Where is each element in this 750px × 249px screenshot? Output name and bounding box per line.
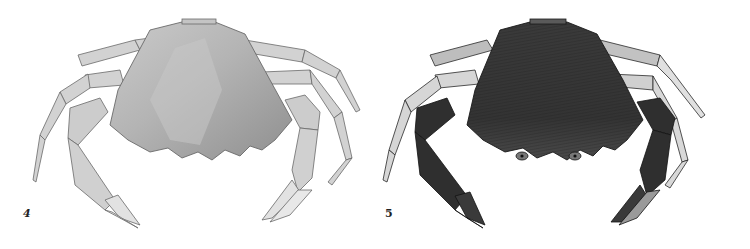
figure-5-crab-dark: 5 [375,0,750,249]
figure-number-label: 5 [385,207,393,220]
frontal-margin [530,19,566,24]
figure-4-crab-light: 4 [0,0,375,249]
figure-number-label: 4 [23,207,31,220]
frontal-margin [182,19,216,24]
crab-illustration-dark [375,0,750,249]
illustration-plate: 4 [0,0,750,249]
crab-illustration-light [0,0,375,249]
